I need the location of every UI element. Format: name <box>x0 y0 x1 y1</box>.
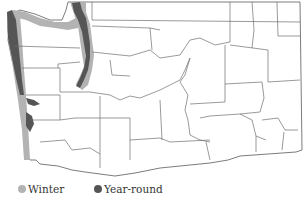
range-map <box>0 0 304 180</box>
year-round-swatch-icon <box>94 185 102 193</box>
state-outline <box>8 2 302 176</box>
map-legend: Winter Year-round <box>0 183 304 200</box>
winter-swatch-icon <box>18 185 26 193</box>
legend-item-winter: Winter <box>18 183 64 195</box>
legend-label-winter: Winter <box>28 183 64 195</box>
legend-label-year-round: Year-round <box>104 183 163 195</box>
legend-item-year-round: Year-round <box>94 183 163 195</box>
